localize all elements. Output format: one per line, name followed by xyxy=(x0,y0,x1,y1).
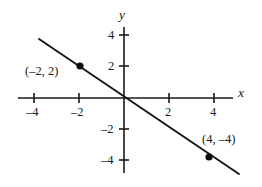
x-tick-label-4: 4 xyxy=(210,106,216,119)
x-tick-label-minus-4: –4 xyxy=(26,106,39,119)
x-tick-label-minus-2: –2 xyxy=(71,106,84,119)
graph-canvas xyxy=(0,0,262,187)
y-tick-label-2: 2 xyxy=(108,60,114,73)
x-axis-label: x xyxy=(238,86,244,100)
y-tick-label-minus-4: –4 xyxy=(101,154,114,167)
y-axis-label: y xyxy=(119,8,125,22)
point-annotation-4-minus4: (4, –4) xyxy=(202,133,235,146)
data-point-4-minus4 xyxy=(205,153,212,160)
data-point-minus2-2 xyxy=(76,62,83,69)
x-tick-label-2: 2 xyxy=(165,106,171,119)
coordinate-plane-figure: x y –4 –2 2 4 4 2 –2 –4 (–2, 2) (4, –4) xyxy=(0,0,262,187)
y-tick-label-minus-2: –2 xyxy=(101,123,114,136)
point-annotation-minus2-2: (–2, 2) xyxy=(25,65,58,78)
y-tick-label-4: 4 xyxy=(108,29,114,42)
